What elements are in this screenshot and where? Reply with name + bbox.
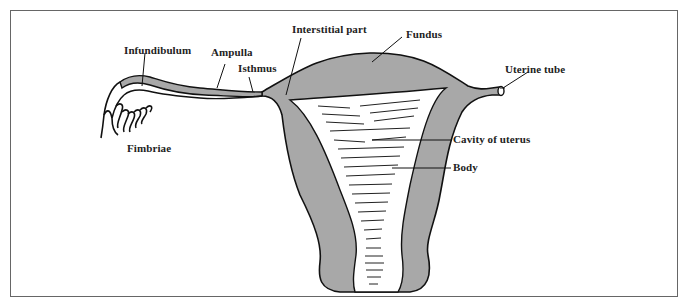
- uterus-diagram: [0, 0, 686, 307]
- uterine-tube-left: [120, 76, 262, 99]
- label-infundibulum: Infundibulum: [124, 44, 191, 56]
- label-cavity-of-uterus: Cavity of uterus: [453, 133, 530, 145]
- label-uterine-tube: Uterine tube: [505, 63, 565, 75]
- label-interstitial-part: Interstitial part: [292, 23, 367, 35]
- label-isthmus: Isthmus: [238, 62, 277, 74]
- label-ampulla: Ampulla: [211, 46, 253, 58]
- label-fundus: Fundus: [406, 28, 442, 40]
- label-body: Body: [453, 161, 478, 173]
- label-fimbriae: Fimbriae: [127, 142, 171, 154]
